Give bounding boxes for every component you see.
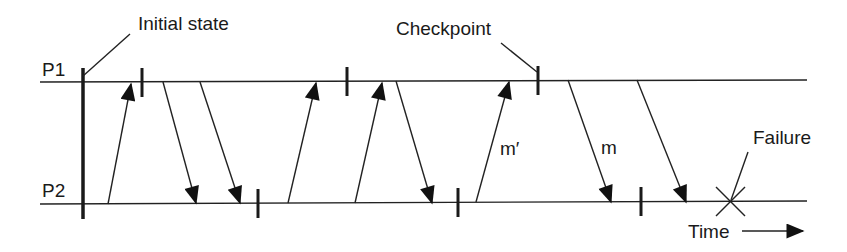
message-arrow [288,83,316,203]
message-arrow [396,81,432,203]
message-label-m: m [601,137,617,158]
initial-state-label: Initial state [138,13,229,34]
message-arrow [355,83,382,203]
time-label: Time [688,221,730,242]
message-arrow [200,82,240,203]
checkpoint-leader [501,43,537,72]
timeline-p1 [40,80,807,82]
process-label-p2: P2 [42,180,65,201]
message-label-m-prime: m′ [500,138,520,159]
failure-label: Failure [753,127,811,148]
timeline-p2 [40,201,807,204]
initial-state-leader [83,34,130,76]
message-arrow [108,84,131,204]
checkpoint-label: Checkpoint [396,18,492,39]
checkpoint-diagram: P1 P2 Initial state Checkpoint m′ m Fail… [0,0,847,252]
message-arrow [637,80,686,202]
message-arrow [163,82,196,203]
process-label-p1: P1 [42,59,65,80]
